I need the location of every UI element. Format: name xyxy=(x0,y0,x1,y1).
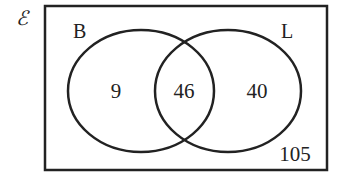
set-l-label: L xyxy=(281,20,293,42)
region-neither-value: 105 xyxy=(279,142,311,166)
venn-diagram: ℰ B L 9 46 40 105 xyxy=(0,0,340,178)
universal-set-symbol: ℰ xyxy=(16,7,30,29)
set-b-label: B xyxy=(73,20,86,42)
region-intersection-value: 46 xyxy=(174,79,195,103)
region-only-b-value: 9 xyxy=(111,79,122,103)
region-only-l-value: 40 xyxy=(247,79,268,103)
